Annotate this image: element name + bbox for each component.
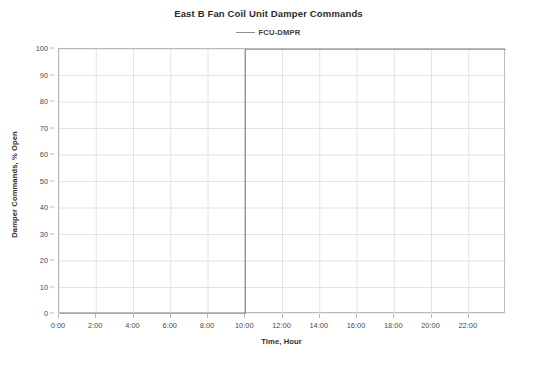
chart-figure: East B Fan Coil Unit Damper Commands FCU… — [0, 0, 537, 367]
x-tick-label: 22:00 — [459, 321, 478, 330]
y-tick-mark — [50, 207, 54, 208]
x-tick-label: 4:00 — [125, 321, 139, 330]
x-tick-mark — [319, 314, 320, 318]
chart-legend: FCU-DMPR — [0, 28, 537, 37]
x-tick-mark — [133, 314, 134, 318]
x-tick-mark — [207, 314, 208, 318]
y-axis-title: Damper Commands, % Open — [10, 105, 19, 265]
x-tick-label: 14:00 — [310, 321, 329, 330]
grid-lines — [59, 49, 506, 314]
x-tick-mark — [393, 314, 394, 318]
y-tick-label: 90 — [40, 70, 48, 79]
x-tick-label: 12:00 — [272, 321, 291, 330]
x-tick-mark — [431, 314, 432, 318]
x-tick-mark — [244, 314, 245, 318]
plot-area — [58, 48, 505, 313]
y-tick-mark — [50, 260, 54, 261]
y-tick-mark — [50, 313, 54, 314]
legend-entry-label: FCU-DMPR — [258, 28, 300, 37]
x-tick-mark — [95, 314, 96, 318]
plot-svg — [59, 49, 506, 314]
x-tick-label: 20:00 — [421, 321, 440, 330]
x-tick-mark — [282, 314, 283, 318]
x-tick-mark — [58, 314, 59, 318]
y-tick-label: 20 — [40, 256, 48, 265]
x-tick-label: 2:00 — [88, 321, 102, 330]
x-tick-label: 16:00 — [347, 321, 366, 330]
x-tick-label: 0:00 — [51, 321, 65, 330]
y-tick-label: 30 — [40, 229, 48, 238]
x-tick-mark — [468, 314, 469, 318]
x-tick-mark — [356, 314, 357, 318]
legend-entry-fcu-dmpr: FCU-DMPR — [236, 28, 300, 37]
y-tick-mark — [50, 127, 54, 128]
y-tick-mark — [50, 154, 54, 155]
x-tick-label: 8:00 — [200, 321, 214, 330]
y-tick-label: 80 — [40, 97, 48, 106]
y-tick-label: 50 — [40, 176, 48, 185]
y-tick-label: 0 — [44, 309, 48, 318]
y-tick-label: 40 — [40, 203, 48, 212]
x-tick-label: 10:00 — [235, 321, 254, 330]
x-tick-label: 18:00 — [384, 321, 403, 330]
y-tick-mark — [50, 286, 54, 287]
x-axis-tick-labels: 0:002:004:006:008:0010:0012:0014:0016:00… — [58, 314, 505, 334]
y-tick-mark — [50, 180, 54, 181]
y-tick-label: 10 — [40, 282, 48, 291]
x-tick-mark — [170, 314, 171, 318]
y-tick-label: 70 — [40, 123, 48, 132]
chart-title: East B Fan Coil Unit Damper Commands — [0, 8, 537, 19]
y-tick-label: 60 — [40, 150, 48, 159]
y-tick-mark — [50, 101, 54, 102]
x-tick-label: 6:00 — [163, 321, 177, 330]
y-tick-mark — [50, 48, 54, 49]
y-tick-mark — [50, 233, 54, 234]
legend-line-icon — [236, 32, 255, 33]
y-tick-mark — [50, 74, 54, 75]
x-axis-title: Time, Hour — [58, 337, 505, 346]
y-tick-label: 100 — [36, 44, 48, 53]
y-axis-tick-labels: 0102030405060708090100 — [0, 48, 54, 313]
